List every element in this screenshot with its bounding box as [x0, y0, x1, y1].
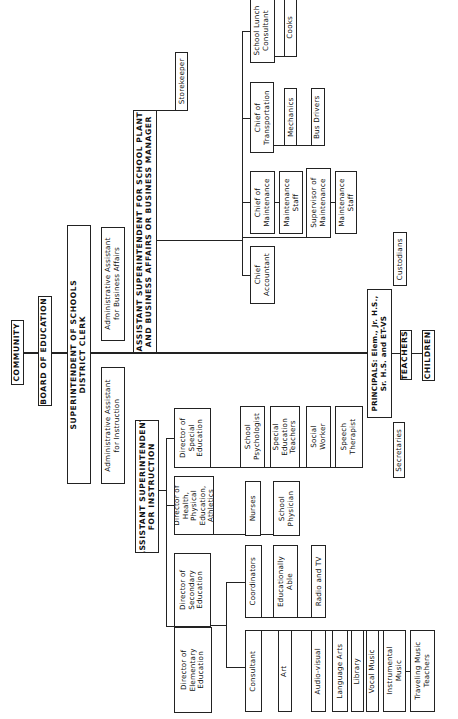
consultant-box: Consultant [245, 630, 262, 712]
instrumental-music-box: Instrumental Music [383, 630, 406, 712]
school-psychologist-box: School Psychologist [240, 406, 265, 468]
secretaries-box: Secretaries [393, 422, 405, 478]
chief-transport-box: Chief of Transportation [250, 82, 274, 153]
maint-branch [242, 202, 250, 203]
special-ed-teachers-box: Special Education Teachers [270, 406, 300, 468]
board-of-education-box: BOARD OF EDUCATION [38, 296, 52, 406]
asst-supt-plant-box: ASSISTANT SUPERINTENDENT FOR SCHOOL PLAN… [133, 110, 157, 353]
org-chart: COMMUNITY BOARD OF EDUCATION SUPERINTEND… [0, 0, 458, 719]
storekeeper-line [157, 110, 175, 111]
nurses-box: Nurses [245, 481, 261, 536]
plant-connector-line [157, 240, 242, 241]
secondary-branch [166, 626, 174, 627]
special-branch [166, 438, 174, 439]
transport-branch [242, 118, 250, 119]
maintenance-staff-2-box: Maintenance Staff [335, 171, 357, 234]
cooks-line [274, 56, 284, 57]
instruction-vertical [166, 438, 167, 626]
coord-branch [226, 582, 245, 583]
lunch-branch [242, 31, 250, 32]
maint-horizontal [242, 237, 306, 238]
teachers-box: TEACHERS [400, 330, 412, 380]
bus-drivers-box: Bus Drivers [311, 88, 325, 146]
director-elementary-box: Director of Elementary Education [174, 627, 212, 713]
radio-tv-box: Radio and TV [311, 545, 326, 618]
traveling-music-box: Traveling Music Teachers [410, 630, 435, 712]
children-box: CHILDREN [422, 330, 435, 381]
school-lunch-box: School Lunch Consultant [250, 0, 275, 63]
director-special-ed-box: Director of Special Education [174, 408, 211, 468]
audio-visual-box: Audio-visual [311, 630, 326, 712]
admin-assistant-instruction-box: Administrative Assistant for Instruction [101, 367, 125, 484]
chief-accountant-box: Chief Accountant [250, 246, 275, 304]
superintendent-box: SUPERINTENDENT OF SCHOOLS DISTRICT CLERK [67, 225, 91, 484]
custodians-box: Custodians [393, 232, 407, 286]
secondary-vertical [226, 582, 227, 667]
instruction-branch [158, 490, 166, 491]
educationally-able-box: Educationally Able [273, 545, 298, 618]
coordinators-box: Coordinators [245, 545, 262, 618]
asst-supt-instruction-box: ASSISTANT SUPERINTENDENT FOR INSTRUCTION [135, 420, 159, 553]
vocal-music-box: Vocal Music [366, 630, 379, 712]
chief-maintenance-box: Chief of Maintenance [250, 171, 275, 234]
director-health-box: Director of Health, Physical Education, … [174, 476, 214, 535]
consultant-branch [226, 667, 245, 668]
admin-assistant-business-box: Administrative Assistant for Business Af… [101, 227, 125, 341]
language-arts-box: Language Arts [332, 630, 348, 712]
library-box: Library [351, 630, 364, 712]
maintenance-staff-box: Maintenance Staff [279, 171, 303, 234]
secondary-line [210, 625, 226, 626]
director-secondary-box: Director of Secondary Education [174, 553, 211, 627]
mechanics-box: Mechanics [284, 88, 297, 146]
speech-therapist-box: Speech Therapist [335, 406, 363, 468]
community-box: COMMUNITY [11, 320, 24, 385]
art-box: Art [278, 630, 292, 712]
storekeeper-box: Storekeeper [175, 52, 188, 111]
accountant-branch [242, 275, 250, 276]
cooks-box: Cooks [284, 0, 297, 57]
supervisor-maintenance-box: Supervisor of Maintenance [306, 168, 331, 238]
social-worker-box: Social Worker [306, 406, 331, 468]
health-branch [166, 505, 174, 506]
school-physician-box: School Physician [273, 481, 300, 536]
plant-vertical-line [242, 31, 243, 276]
principals-box: PRINCIPALS: Elem., Jr. H.S., Sr. H.S. an… [367, 289, 392, 418]
